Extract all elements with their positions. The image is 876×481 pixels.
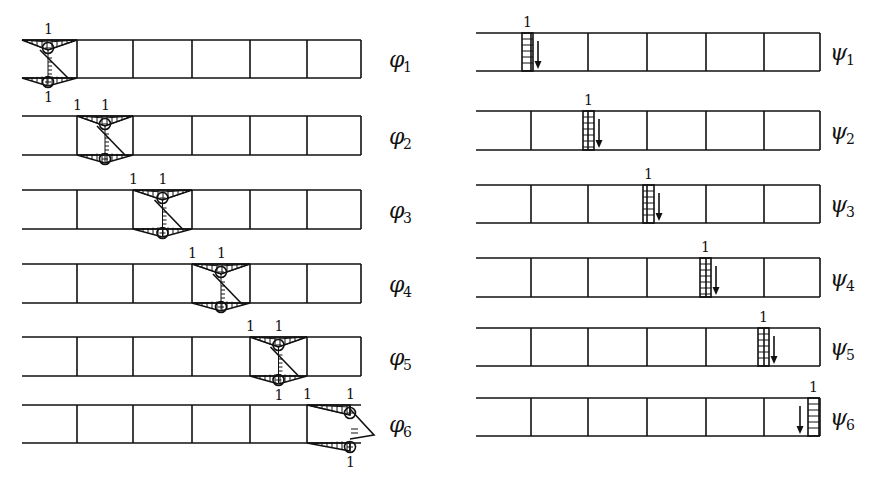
load-value-label: 1 xyxy=(584,92,593,108)
value-label-left: 1 xyxy=(188,245,197,261)
phi-mode-2: 11φ2 xyxy=(22,97,412,165)
load-value-label: 1 xyxy=(809,379,818,395)
psi-mode-2: 1ψ2 xyxy=(476,92,855,150)
stress-diagram-bottom xyxy=(307,443,350,451)
mode-subscript: 6 xyxy=(403,424,412,440)
value-label-left: 1 xyxy=(246,318,255,334)
value-label-bottom: 1 xyxy=(346,454,355,470)
value-label-top: 1 xyxy=(346,386,355,402)
phi-modes-column: 11φ111φ211φ311φ4111φ5111φ6 xyxy=(22,21,412,470)
mode-subscript: 1 xyxy=(846,52,855,68)
phi-mode-6: 111φ6 xyxy=(22,386,412,470)
psi-mode-1: 1ψ1 xyxy=(476,14,855,71)
shear-diagonal xyxy=(213,274,241,303)
shear-diagonal xyxy=(155,200,183,229)
value-label-top: 1 xyxy=(159,171,168,187)
load-value-label: 1 xyxy=(759,309,768,325)
value-label-bottom: 1 xyxy=(275,387,284,403)
mode-subscript: 5 xyxy=(846,347,855,363)
psi-mode-3: 1ψ3 xyxy=(476,166,855,223)
arrow-down-icon xyxy=(535,61,542,69)
diagram-canvas: 11φ111φ211φ311φ4111φ5111φ6 1ψ11ψ21ψ31ψ41… xyxy=(0,0,876,481)
arrow-down-icon xyxy=(596,140,603,148)
value-label-bottom: 1 xyxy=(44,89,53,105)
psi-mode-5: 1ψ5 xyxy=(476,309,855,366)
mode-subscript: 4 xyxy=(403,284,412,300)
mode-subscript: 3 xyxy=(846,204,855,220)
psi-modes-column: 1ψ11ψ21ψ31ψ41ψ51ψ6 xyxy=(476,14,855,436)
psi-mode-6: 1ψ6 xyxy=(476,379,855,436)
phi-mode-4: 11φ4 xyxy=(22,245,412,313)
mode-subscript: 1 xyxy=(403,59,412,75)
stress-outline-top xyxy=(307,405,350,415)
value-label-top: 1 xyxy=(275,318,284,334)
mode-subscript: 2 xyxy=(846,131,855,147)
value-label-left: 1 xyxy=(303,386,312,402)
mode-subscript: 2 xyxy=(403,136,412,152)
shear-diagonal xyxy=(271,347,299,376)
mode-subscript: 3 xyxy=(403,210,412,226)
shear-diagonal xyxy=(97,126,125,155)
value-label-top: 1 xyxy=(44,21,53,37)
load-value-label: 1 xyxy=(644,166,653,182)
arrow-down-icon xyxy=(713,287,720,295)
arrow-down-icon xyxy=(771,356,778,364)
phi-mode-3: 11φ3 xyxy=(22,171,412,239)
load-value-label: 1 xyxy=(701,239,710,255)
arrow-down-icon xyxy=(656,213,663,221)
value-label-top: 1 xyxy=(101,97,110,113)
arrow-down-icon xyxy=(797,426,804,434)
psi-mode-4: 1ψ4 xyxy=(476,239,855,297)
value-label-left: 1 xyxy=(73,97,82,113)
shear-diagonal xyxy=(40,50,68,78)
load-value-label: 1 xyxy=(523,14,532,30)
mode-subscript: 4 xyxy=(846,278,855,294)
value-label-top: 1 xyxy=(217,245,226,261)
value-label-left: 1 xyxy=(129,171,138,187)
shear-triangle-end xyxy=(350,409,374,439)
mode-subscript: 6 xyxy=(846,417,855,433)
mode-subscript: 5 xyxy=(403,357,412,373)
phi-mode-1: 11φ1 xyxy=(22,21,412,105)
